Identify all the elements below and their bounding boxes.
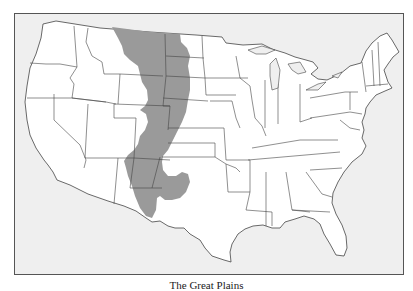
us-landmass xyxy=(25,21,399,262)
map-caption: The Great Plains xyxy=(0,279,413,291)
